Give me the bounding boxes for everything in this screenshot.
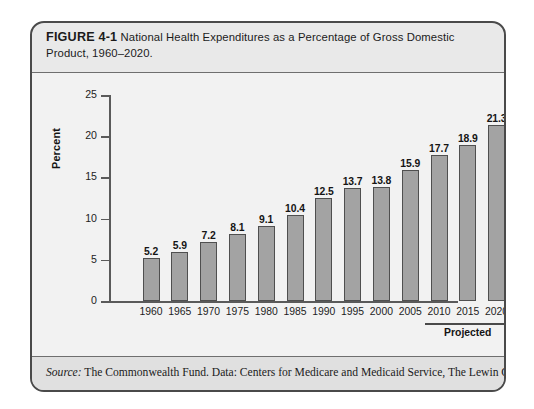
bar-value-label: 7.2 [202, 230, 216, 241]
bar: 18.9 [459, 145, 476, 301]
bar-value-label: 15.9 [400, 158, 420, 169]
bar: 15.9 [402, 170, 419, 301]
bar-value-label: 17.7 [429, 143, 449, 154]
y-tick-label: 20 [85, 129, 97, 141]
bar: 13.8 [373, 187, 390, 301]
bar-value-label: 8.1 [230, 222, 244, 233]
bar-value-label: 5.2 [144, 246, 158, 257]
bar-value-label: 10.4 [285, 203, 305, 214]
figure-card: FIGURE 4-1 National Health Expenditures … [30, 21, 506, 392]
x-tick-label: 2020 [477, 306, 506, 317]
projected-bracket-line [425, 323, 506, 325]
source-band: Source: The Commonwealth Fund. Data: Cen… [32, 356, 504, 390]
bar: 21.3 [488, 125, 505, 301]
y-tick-label: 10 [85, 212, 97, 224]
y-axis-title: Percent [50, 128, 62, 169]
x-axis-line [109, 301, 458, 303]
bar: 8.1 [229, 234, 246, 301]
bar: 10.4 [287, 215, 304, 301]
y-tick: 15 [101, 177, 109, 179]
y-tick: 10 [101, 219, 109, 221]
figure-number: FIGURE 4-1 [46, 30, 117, 44]
chart-plot-area: Percent 0510152025 5.25.97.28.19.110.412… [32, 73, 504, 360]
y-tick-label: 25 [85, 88, 97, 100]
bar-value-label: 5.9 [173, 240, 187, 251]
y-axis-line [109, 95, 111, 302]
y-tick-label: 0 [91, 294, 97, 306]
bar: 12.5 [315, 198, 332, 301]
bar-value-label: 12.5 [314, 186, 334, 197]
bar-value-label: 21.3 [487, 113, 506, 124]
bar-value-label: 9.1 [259, 214, 273, 225]
bar: 17.7 [431, 155, 448, 301]
source-label: Source: [46, 366, 82, 379]
bar-value-label: 13.8 [371, 175, 391, 186]
y-tick: 20 [101, 136, 109, 138]
y-tick-label: 15 [85, 170, 97, 182]
y-tick: 25 [101, 95, 109, 97]
bar: 5.9 [171, 252, 188, 301]
source-body: The Commonwealth Fund. Data: Centers for… [82, 366, 506, 379]
bar: 13.7 [344, 188, 361, 301]
y-tick: 5 [101, 260, 109, 262]
y-tick-label: 5 [91, 253, 97, 265]
bar-value-label: 18.9 [458, 133, 478, 144]
figure-caption: FIGURE 4-1 National Health Expenditures … [32, 23, 504, 73]
bar: 7.2 [200, 242, 217, 301]
projected-label: Projected [425, 327, 506, 338]
bar: 5.2 [143, 258, 160, 301]
bar-value-label: 13.7 [343, 176, 363, 187]
chart-canvas: Percent 0510152025 5.25.97.28.19.110.412… [32, 73, 506, 360]
y-tick: 0 [101, 301, 109, 303]
source-note: Source: The Commonwealth Fund. Data: Cen… [46, 366, 494, 379]
bar: 9.1 [258, 226, 275, 301]
